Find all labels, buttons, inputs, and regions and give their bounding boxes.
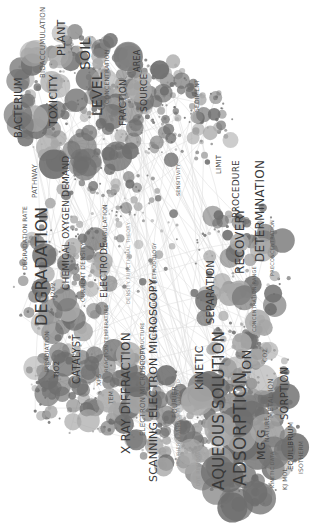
network-node bbox=[39, 224, 45, 230]
network-node bbox=[116, 221, 123, 228]
network-node bbox=[169, 209, 178, 218]
network-node bbox=[220, 336, 227, 343]
network-node bbox=[73, 274, 81, 282]
network-node bbox=[151, 219, 155, 223]
network-node bbox=[196, 239, 198, 241]
network-node bbox=[80, 345, 82, 347]
network-node bbox=[209, 91, 222, 104]
network-node bbox=[69, 432, 71, 434]
network-node bbox=[75, 228, 78, 231]
network-node bbox=[4, 101, 32, 129]
network-node bbox=[116, 234, 124, 242]
network-node bbox=[270, 228, 295, 253]
network-node bbox=[224, 129, 227, 132]
network-node bbox=[77, 233, 79, 235]
network-node bbox=[116, 211, 118, 213]
network-node bbox=[203, 250, 216, 263]
network-node bbox=[158, 116, 160, 118]
network-node bbox=[243, 326, 245, 328]
network-node bbox=[195, 263, 197, 265]
network-node bbox=[34, 83, 42, 91]
network-node bbox=[102, 141, 132, 171]
network-node bbox=[32, 278, 51, 297]
network-node bbox=[178, 439, 204, 465]
network-node bbox=[120, 215, 122, 217]
network-node bbox=[181, 384, 213, 416]
network-node bbox=[80, 265, 82, 267]
network-node bbox=[169, 243, 176, 250]
network-node bbox=[57, 254, 76, 273]
network-node bbox=[91, 212, 94, 215]
network-node bbox=[34, 80, 38, 84]
network-node bbox=[154, 188, 160, 194]
network-node bbox=[93, 388, 95, 390]
network-node bbox=[64, 238, 82, 256]
network-node bbox=[164, 267, 168, 271]
network-node bbox=[148, 258, 153, 263]
network-node bbox=[218, 311, 228, 321]
network-node bbox=[216, 120, 226, 130]
network-node bbox=[197, 416, 199, 418]
network-node bbox=[124, 372, 149, 397]
network-node bbox=[95, 112, 97, 114]
network-node bbox=[66, 398, 80, 412]
network-node bbox=[257, 437, 290, 470]
network-node bbox=[208, 342, 221, 355]
network-node bbox=[189, 79, 198, 88]
network-node bbox=[223, 132, 239, 148]
network-node bbox=[214, 228, 216, 230]
network-node bbox=[103, 138, 105, 140]
network-node bbox=[136, 174, 140, 178]
network-node bbox=[161, 426, 172, 437]
network-node bbox=[124, 252, 126, 254]
network-node bbox=[126, 429, 147, 450]
network-node bbox=[77, 409, 100, 432]
network-node bbox=[151, 177, 155, 181]
network-node bbox=[23, 307, 34, 318]
network-node bbox=[76, 291, 84, 299]
network-node bbox=[222, 356, 251, 385]
network-node bbox=[210, 143, 213, 146]
network-node bbox=[19, 314, 22, 317]
network-node bbox=[62, 70, 65, 73]
network-node bbox=[45, 198, 56, 209]
network-node bbox=[155, 195, 161, 201]
network-node bbox=[74, 72, 76, 74]
network-node bbox=[173, 72, 190, 89]
network-node bbox=[232, 285, 257, 310]
network-node bbox=[36, 411, 46, 421]
network-node bbox=[124, 197, 126, 199]
network-node bbox=[168, 221, 170, 223]
network-node bbox=[175, 223, 178, 226]
network-node bbox=[231, 118, 233, 120]
network-node bbox=[116, 342, 141, 367]
network-node bbox=[80, 113, 89, 122]
network-node bbox=[68, 336, 71, 339]
network-node bbox=[184, 117, 186, 119]
network-node bbox=[91, 258, 111, 278]
network-node bbox=[46, 74, 70, 98]
network-node bbox=[220, 248, 240, 268]
network-node bbox=[18, 276, 29, 287]
network-node bbox=[187, 132, 200, 145]
network-node bbox=[221, 488, 254, 521]
network-node bbox=[201, 455, 234, 488]
network-node bbox=[175, 458, 177, 460]
network-node bbox=[154, 84, 173, 103]
node-layer bbox=[4, 24, 309, 523]
network-node bbox=[23, 356, 47, 380]
network-node bbox=[228, 330, 232, 334]
network-node bbox=[147, 65, 150, 68]
network-node bbox=[32, 243, 56, 267]
network-node bbox=[232, 333, 252, 353]
network-node bbox=[245, 269, 249, 273]
network-node bbox=[156, 365, 177, 386]
network-node bbox=[229, 321, 232, 324]
network-node bbox=[137, 290, 140, 293]
network-node bbox=[160, 229, 163, 232]
network-node bbox=[70, 225, 75, 230]
network-node bbox=[164, 153, 179, 168]
network-node bbox=[75, 235, 77, 237]
network-node bbox=[150, 280, 152, 282]
network-node bbox=[53, 352, 78, 377]
